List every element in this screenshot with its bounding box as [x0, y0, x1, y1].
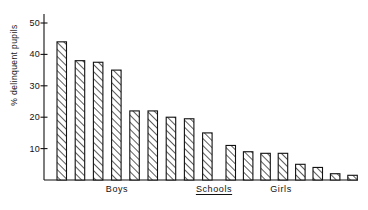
- bar-fill: [93, 62, 103, 180]
- bar-fill: [57, 42, 67, 180]
- chart-figure: % delinquent pupils 50 40 30 20 10 Boys …: [0, 0, 368, 210]
- bar-fill: [112, 70, 122, 180]
- bar-fill: [226, 145, 236, 180]
- x-group-label-girls: Girls: [270, 184, 292, 194]
- bar-boys-5: [130, 111, 140, 180]
- x-axis-center-label: Schools: [196, 184, 232, 194]
- chart-axes: [41, 14, 359, 180]
- bar-girls-1: [226, 145, 236, 180]
- bar-fill: [348, 175, 358, 180]
- chart-bars: [57, 42, 357, 180]
- bar-girls-2: [243, 152, 253, 180]
- bar-fill: [75, 61, 85, 180]
- bar-boys-1: [57, 42, 67, 180]
- bar-girls-5: [296, 164, 306, 180]
- bar-boys-6: [148, 111, 158, 180]
- bar-fill: [166, 117, 176, 180]
- bar-fill: [278, 153, 288, 180]
- bar-girls-4: [278, 153, 288, 180]
- bar-fill: [148, 111, 158, 180]
- bar-girls-7: [330, 174, 340, 180]
- bar-fill: [261, 153, 271, 180]
- chart-plot-area: [0, 0, 368, 210]
- bar-girls-6: [313, 167, 323, 180]
- bar-fill: [330, 174, 340, 180]
- bar-boys-9: [203, 133, 213, 180]
- bar-boys-7: [166, 117, 176, 180]
- bar-girls-3: [261, 153, 271, 180]
- bar-fill: [243, 152, 253, 180]
- bar-boys-2: [75, 61, 85, 180]
- bar-fill: [203, 133, 213, 180]
- bar-boys-8: [184, 119, 194, 180]
- bar-fill: [313, 167, 323, 180]
- bar-fill: [130, 111, 140, 180]
- bar-girls-8: [348, 175, 358, 180]
- bar-boys-3: [93, 62, 103, 180]
- bar-boys-4: [112, 70, 122, 180]
- x-group-label-boys: Boys: [106, 184, 128, 194]
- bar-fill: [296, 164, 306, 180]
- bar-fill: [184, 119, 194, 180]
